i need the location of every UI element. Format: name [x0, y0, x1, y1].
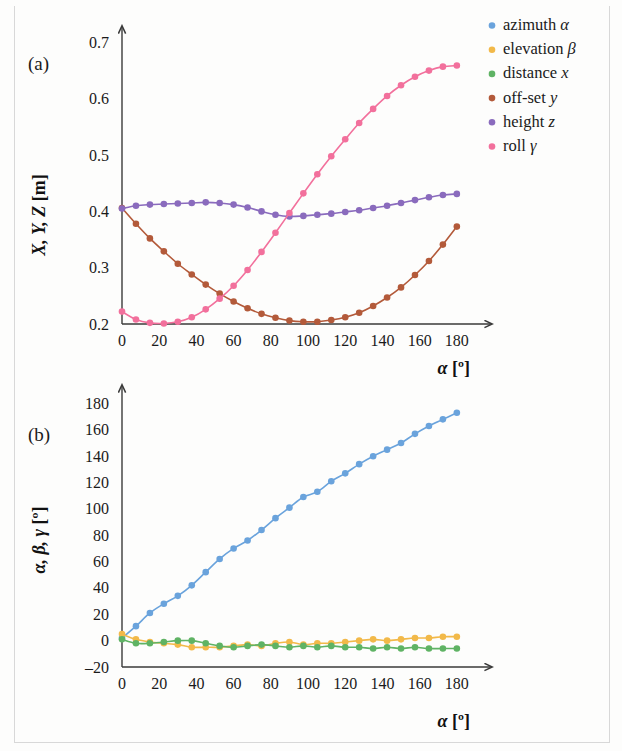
legend-marker-roll	[489, 143, 496, 150]
data-point-azimuth	[328, 478, 335, 485]
legend-label-azimuth: azimuth α	[503, 15, 569, 34]
data-point-elevation	[384, 637, 391, 644]
series-line-azimuth	[122, 413, 457, 638]
x-tick-label: 40	[188, 332, 204, 349]
data-point-roll	[175, 318, 182, 325]
data-point-azimuth	[216, 556, 223, 563]
data-point-roll	[119, 308, 126, 315]
data-point-roll	[188, 314, 195, 321]
panel-a-xlabel-text: α [º]	[438, 358, 470, 378]
panel-a-xtick-labels: 020406080100120140160180	[118, 332, 469, 349]
panel-a-series-group	[119, 62, 460, 327]
data-point-height	[370, 205, 377, 212]
data-point-azimuth	[426, 423, 433, 430]
panel-b-xlabel-text: α [º]	[438, 711, 470, 731]
x-tick-label: 100	[296, 332, 320, 349]
data-point-offset	[454, 223, 461, 230]
x-tick-label: 160	[408, 675, 432, 692]
data-point-azimuth	[244, 537, 251, 544]
data-point-offset	[147, 235, 154, 242]
data-point-distance	[412, 644, 419, 651]
data-point-azimuth	[384, 446, 391, 453]
data-point-distance	[175, 637, 182, 644]
y-tick-label: 160	[85, 421, 109, 438]
data-point-height	[258, 208, 265, 215]
figure-frame-bottom	[14, 742, 610, 743]
data-point-offset	[300, 318, 307, 325]
y-tick-label: –20	[84, 659, 109, 676]
panel-a-ylabel-text: X, Y, Z [m]	[29, 174, 49, 257]
panel-b-series-group	[119, 409, 460, 651]
y-tick-label: 0.4	[89, 203, 109, 220]
data-point-azimuth	[314, 489, 321, 496]
data-point-height	[216, 200, 223, 207]
panel-a-yaxis-title: X, Y, Z [m]	[29, 174, 49, 257]
data-point-distance	[398, 645, 405, 652]
legend-marker-offset	[489, 95, 496, 102]
data-point-height	[202, 199, 209, 206]
x-tick-label: 80	[263, 332, 279, 349]
panel-a: (a) X, Y, Z [m] 0.20.30.40.50.60.7 02040…	[28, 26, 492, 378]
y-tick-label: 40	[93, 579, 109, 596]
data-point-offset	[328, 317, 335, 324]
panel-b-ylabel-text: α, β, γ [º]	[29, 506, 49, 573]
data-point-elevation	[370, 636, 377, 643]
data-point-azimuth	[230, 545, 237, 552]
data-point-distance	[300, 643, 307, 650]
x-tick-label: 180	[445, 675, 469, 692]
data-point-distance	[188, 637, 195, 644]
data-point-roll	[258, 249, 265, 256]
legend-label-offset: off-set y	[503, 88, 558, 107]
legend-item-elevation[interactable]: elevation β	[489, 39, 577, 58]
data-point-distance	[342, 644, 349, 651]
data-point-height	[398, 200, 405, 207]
legend-label-elevation: elevation β	[503, 39, 577, 58]
data-point-azimuth	[147, 610, 154, 617]
legend-item-offset[interactable]: off-set y	[489, 88, 558, 107]
legend-item-height[interactable]: height z	[489, 112, 556, 131]
data-point-offset	[188, 271, 195, 278]
data-point-distance	[230, 644, 237, 651]
x-tick-label: 140	[370, 675, 394, 692]
data-point-azimuth	[175, 593, 182, 600]
legend-label-height: height z	[503, 112, 555, 131]
legend-item-roll[interactable]: roll γ	[489, 136, 537, 155]
legend-marker-height	[489, 119, 496, 126]
data-point-azimuth	[202, 569, 209, 576]
panel-b-yaxis-title: α, β, γ [º]	[29, 506, 49, 573]
data-point-azimuth	[370, 453, 377, 460]
legend-label-distance: distance x	[503, 63, 569, 82]
data-point-offset	[342, 314, 349, 321]
data-point-offset	[384, 294, 391, 301]
legend-item-distance[interactable]: distance x	[489, 63, 569, 82]
data-point-roll	[384, 93, 391, 100]
data-point-offset	[356, 309, 363, 316]
data-point-distance	[426, 645, 433, 652]
figure-container: (a) X, Y, Z [m] 0.20.30.40.50.60.7 02040…	[0, 0, 622, 751]
data-point-roll	[426, 67, 433, 74]
data-point-azimuth	[286, 504, 293, 511]
data-point-roll	[454, 62, 461, 69]
data-point-azimuth	[454, 409, 461, 416]
series-line-roll	[122, 66, 457, 324]
legend-item-azimuth[interactable]: azimuth α	[489, 15, 570, 34]
data-point-offset	[440, 241, 447, 248]
y-tick-label: 0.3	[89, 259, 109, 276]
x-tick-label: 80	[263, 675, 279, 692]
data-point-offset	[258, 311, 265, 318]
data-point-height	[356, 207, 363, 214]
legend-label-roll: roll γ	[503, 136, 537, 155]
x-tick-label: 40	[188, 675, 204, 692]
x-tick-label: 60	[226, 332, 242, 349]
data-point-roll	[133, 316, 140, 323]
y-tick-label: 0.7	[89, 34, 109, 51]
legend-marker-elevation	[489, 46, 496, 53]
data-point-offset	[314, 318, 321, 325]
data-point-height	[272, 211, 279, 218]
data-point-height	[188, 200, 195, 207]
data-point-elevation	[412, 635, 419, 642]
data-point-height	[328, 210, 335, 217]
data-point-distance	[328, 643, 335, 650]
data-point-azimuth	[161, 600, 168, 607]
data-point-roll	[147, 320, 154, 327]
